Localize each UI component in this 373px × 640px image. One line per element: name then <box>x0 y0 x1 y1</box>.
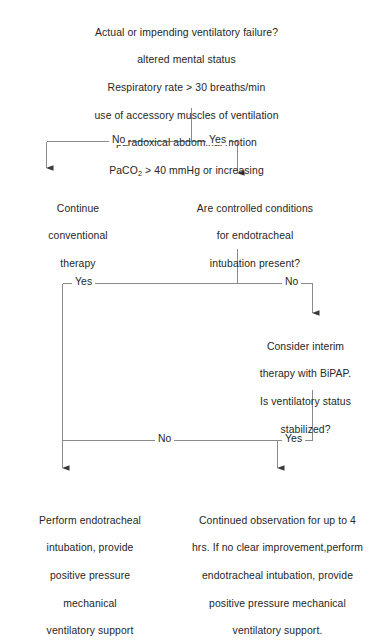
bipap-line-2: therapy with BiPAP. <box>238 367 373 381</box>
perform-line-3: positive pressure <box>0 569 180 583</box>
edge-label-branch3-no: No <box>155 434 174 444</box>
root-line-2: altered mental status <box>46 53 327 67</box>
continued-line-3: endotracheal intubation, provide <box>182 569 373 583</box>
conv-line-2: conventional <box>0 229 156 243</box>
root-line-4: use of accessory muscles of ventilation <box>46 109 327 123</box>
paco2-suffix: > 40 mmHg or increasing <box>142 165 264 176</box>
continued-line-1: Continued observation for up to 4 <box>182 514 373 528</box>
root-line-3: Respiratory rate > 30 breaths/min <box>46 81 327 95</box>
edge-label-branch2-no: No <box>282 277 301 287</box>
ctrl-line-1: Are controlled conditions <box>160 202 350 216</box>
ctrl-line-3: intubation present? <box>160 257 350 271</box>
bipap-line-4: stabilized? <box>238 423 373 437</box>
continued-line-5: ventilatory support. <box>182 624 373 638</box>
edge-label-branch3-yes: Yes <box>282 434 305 444</box>
bipap-line-1: Consider interim <box>238 340 373 354</box>
node-perform-intubation: Perform endotracheal intubation, provide… <box>0 500 180 640</box>
continued-line-4: positive pressure mechanical <box>182 597 373 611</box>
edge-label-branch2-yes: Yes <box>72 277 95 287</box>
perform-line-5: ventilatory support <box>0 624 180 638</box>
bipap-line-3: Is ventilatory status <box>238 395 373 409</box>
conv-line-1: Continue <box>0 202 156 216</box>
continued-line-2: hrs. If no clear improvement,perform <box>182 541 373 555</box>
paco2-subscript: 2 <box>138 169 142 178</box>
node-bipap-interim-therapy: Consider interim therapy with BiPAP. Is … <box>238 326 373 450</box>
node-controlled-conditions: Are controlled conditions for endotrache… <box>160 188 350 285</box>
root-line-paco2: PaCO2 > 40 mmHg or increasing <box>46 164 327 178</box>
conv-line-3: therapy <box>0 257 156 271</box>
edge-label-branch1-no: No <box>109 135 128 145</box>
perform-line-2: intubation, provide <box>0 541 180 555</box>
root-line-5: paradoxical abdominal motion <box>46 136 327 150</box>
root-line-1: Actual or impending ventilatory failure? <box>46 26 327 40</box>
node-root-criteria: Actual or impending ventilatory failure?… <box>46 12 327 192</box>
perform-line-1: Perform endotracheal <box>0 514 180 528</box>
node-continue-conventional: Continue conventional therapy <box>0 188 156 285</box>
ctrl-line-2: for endotracheal <box>160 229 350 243</box>
paco2-prefix: PaCO <box>109 165 138 176</box>
node-continued-observation: Continued observation for up to 4 hrs. I… <box>182 500 373 640</box>
edge-label-branch1-yes: Yes <box>206 135 229 145</box>
perform-line-4: mechanical <box>0 597 180 611</box>
